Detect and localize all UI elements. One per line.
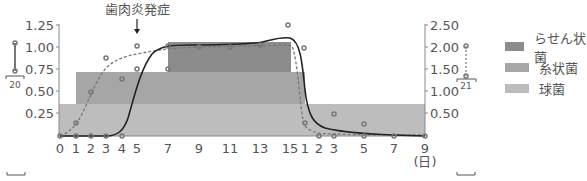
arrow-down-icon: [134, 19, 140, 34]
left-tick-0.25: 0.25: [25, 106, 54, 121]
marker-20-label: 20: [9, 80, 21, 90]
right-tick-2.00: 2.00: [430, 40, 459, 55]
marker-20: 20: [6, 41, 24, 90]
right-tick-0.50: 0.50: [430, 106, 459, 121]
x-tick: 7: [390, 141, 398, 156]
x-tick: 7: [164, 141, 172, 156]
legend-item-coccus: 球菌: [505, 78, 587, 99]
marker-21: 21: [457, 44, 476, 91]
x-tick: 1: [301, 141, 309, 156]
x-tick: 11: [222, 141, 239, 156]
x-tick: 9: [195, 141, 203, 156]
left-tick-0.50: 0.50: [25, 84, 54, 99]
left-tick-1.00: 1.00: [25, 40, 54, 55]
marker-21-label: 21: [460, 81, 471, 91]
x-tick: 3: [102, 141, 110, 156]
x-tick: 4: [118, 141, 126, 156]
onset-annotation: 歯肉炎発症: [105, 2, 170, 17]
bar-filamentous: [76, 72, 305, 104]
bracket-right: [457, 172, 475, 175]
x-tick: 5: [360, 141, 368, 156]
x-unit-label: (日): [413, 154, 436, 169]
right-axis: [425, 24, 428, 136]
x-tick: 0: [56, 141, 64, 156]
bacteria-chart: 1.25 1.00 0.75 0.50 0.25 2.50 2.00 1.50 …: [0, 0, 587, 181]
legend-item-spirochete: らせん状菌: [505, 36, 587, 57]
legend-swatch: [505, 42, 524, 51]
right-tick-1.00: 1.00: [430, 84, 459, 99]
legend: らせん状菌 糸状菌 球菌: [505, 36, 587, 99]
legend-swatch: [505, 84, 529, 93]
right-tick-1.50: 1.50: [430, 62, 459, 77]
legend-label: 球菌: [539, 79, 565, 98]
legend-item-filamentous: 糸状菌: [505, 57, 587, 78]
x-tick: 5: [133, 141, 141, 156]
x-tick: 2: [87, 141, 95, 156]
x-tick: 3: [330, 141, 338, 156]
x-tick: 2: [315, 141, 323, 156]
legend-swatch: [505, 63, 529, 72]
bar-coccus: [59, 104, 425, 136]
legend-label: 糸状菌: [539, 58, 578, 77]
x-tick: 15: [282, 141, 299, 156]
left-axis: [56, 24, 59, 136]
x-tick: 13: [252, 141, 269, 156]
bracket-left: [7, 172, 25, 175]
right-tick-2.50: 2.50: [430, 18, 459, 33]
left-tick-0.75: 0.75: [25, 62, 54, 77]
left-tick-1.25: 1.25: [25, 18, 54, 33]
x-tick: 1: [72, 141, 80, 156]
